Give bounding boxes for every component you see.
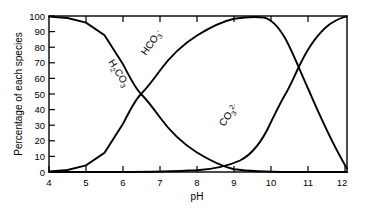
y-tick-label: 40: [34, 104, 45, 115]
carbonate-speciation-figure: 100 90 80 70 60 50 40 30 20 10 0: [0, 0, 370, 217]
x-tick-label: 9: [231, 177, 236, 188]
y-tick-label: 0: [40, 167, 45, 178]
y-tick-label: 90: [34, 26, 45, 37]
figure-background: [0, 0, 370, 217]
y-tick-label: 10: [34, 151, 45, 162]
x-tick-label: 5: [83, 177, 88, 188]
x-tick-label: 11: [303, 177, 313, 188]
y-tick-label: 100: [29, 11, 45, 22]
y-axis-title: Percentage of each species: [13, 32, 24, 155]
y-tick-label: 50: [34, 89, 45, 100]
x-tick-label: 10: [266, 177, 277, 188]
x-axis-title: pH: [191, 191, 204, 202]
chart-canvas: 100 90 80 70 60 50 40 30 20 10 0: [0, 0, 370, 217]
y-tick-label: 30: [34, 120, 45, 131]
y-tick-label: 70: [34, 57, 45, 68]
x-tick-label: 7: [157, 177, 162, 188]
x-tick-label: 4: [46, 177, 51, 188]
x-tick-label: 8: [194, 177, 199, 188]
y-tick-label: 20: [34, 135, 45, 146]
y-tick-label: 80: [34, 42, 45, 53]
x-tick-label: 12: [337, 177, 348, 188]
x-tick-label: 6: [120, 177, 125, 188]
y-tick-label: 60: [34, 73, 45, 84]
